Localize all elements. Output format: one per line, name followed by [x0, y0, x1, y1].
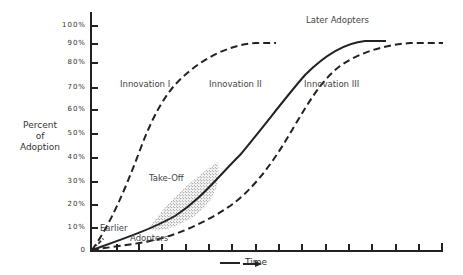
- later-adopters-label: Later Adopters: [306, 15, 369, 25]
- y-tick-0: 0: [46, 246, 86, 254]
- innovation-1-label: Innovation I: [120, 79, 170, 89]
- y-axis-title-line-3: Adoption: [18, 142, 62, 153]
- innovation-3-label: Innovation III: [304, 79, 359, 89]
- adopters-label: Adopters: [130, 233, 168, 243]
- innovation-2-curve: [92, 41, 386, 250]
- y-tick-30: 30%: [46, 177, 86, 185]
- x-axis-title-text: Time: [245, 257, 267, 267]
- y-axis: [91, 12, 98, 251]
- y-tick-20: 20%: [46, 200, 86, 208]
- innovation-3-curve: [92, 43, 443, 250]
- y-tick-60: 60%: [46, 105, 86, 113]
- y-tick-80: 80%: [46, 58, 86, 66]
- y-tick-90: 90%: [46, 39, 86, 47]
- y-tick-40: 40%: [46, 153, 86, 161]
- y-tick-100: 100%: [46, 21, 86, 29]
- y-tick-50: 50%: [46, 129, 86, 137]
- earlier-label: Earlier: [100, 223, 128, 233]
- y-tick-10: 10%: [46, 223, 86, 231]
- x-axis-title: Time: [220, 257, 267, 267]
- x-axis: [90, 243, 443, 251]
- dash-icon: [220, 262, 240, 264]
- innovation-2-label: Innovation II: [209, 79, 262, 89]
- take-off-label: Take-Off: [149, 173, 184, 183]
- y-tick-70: 70%: [46, 83, 86, 91]
